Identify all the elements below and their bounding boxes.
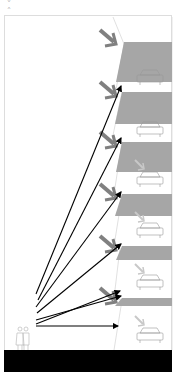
sun-arrow-icon [100, 184, 116, 200]
reflected-light-arrow-icon [135, 316, 144, 326]
floor-plate [115, 298, 172, 306]
car-icon [137, 172, 163, 187]
car-icon [137, 223, 163, 238]
view-line-arrow [38, 138, 121, 300]
car-icon [137, 122, 163, 137]
reflected-light-arrow-icon [135, 264, 144, 274]
parking-section-diagram [0, 0, 176, 372]
floor-plate [115, 194, 172, 216]
sun-arrow-icon [100, 132, 116, 148]
pedestrian-figures [16, 327, 29, 350]
floor-plate [116, 246, 172, 260]
sun-arrow-icon [100, 30, 116, 46]
view-line-arrow [36, 192, 121, 307]
view-line-arrow [36, 291, 120, 324]
ground-slab [4, 350, 172, 372]
view-line-arrow [36, 296, 121, 320]
sun-arrow-icon [100, 82, 116, 98]
car-icon [137, 328, 163, 343]
floor-plate [115, 92, 172, 124]
car-icon [137, 275, 163, 290]
floor-plate [116, 42, 172, 82]
